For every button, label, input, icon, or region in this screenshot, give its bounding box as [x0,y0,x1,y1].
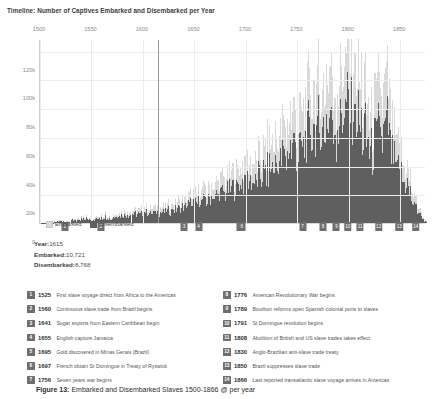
event-marker[interactable]: 12 [375,222,383,231]
event-description: Last reported transatlantic slave voyage… [252,377,389,383]
event-row[interactable]: 21560Continuous slave trade from Brazil … [27,302,227,316]
readout-disembarked-value: 8,768 [75,261,90,268]
gridline-vertical [143,40,144,223]
event-number-badge: 7 [27,376,35,384]
event-marker[interactable]: 14 [412,222,420,231]
x-axis-tick-label: 1800 [342,26,354,32]
event-number-badge: 6 [27,362,35,370]
event-description: Anglo-Brazilian anti-slave trade treaty [252,349,338,355]
legend-swatch-embarked-icon [46,221,53,228]
legend-label-disembarked: Disembarked [99,221,133,227]
readout-disembarked-key: Disembarked: [34,261,75,268]
readout-disembarked: Disembarked:8,768 [34,260,90,271]
event-row[interactable]: 41655English capture Jamaica [27,331,227,345]
event-row[interactable]: 121830Anglo-Brazilian anti-slave trade t… [223,345,423,359]
y-axis-tick-label: 20k [26,210,35,216]
event-year: 1560 [38,306,53,312]
event-number-badge: 9 [223,305,231,313]
event-description: French obtain St Domingue in Treaty of R… [56,363,167,369]
event-marker[interactable]: 8 [320,222,327,231]
event-row[interactable]: 81776American Revolutionary War begins [223,288,423,302]
event-row[interactable]: 111808Abolition of British and US slave … [223,331,423,345]
gridline-horizontal [40,52,425,53]
y-axis-tick-label: 120k [23,67,35,73]
event-number-badge: 8 [223,291,231,299]
event-row[interactable]: 101791St Domingue revolution begins [223,316,423,330]
event-year: 1776 [234,292,249,298]
y-axis-tick-label: 80k [26,124,35,130]
event-description: St Domingue revolution begins [252,320,323,326]
event-description: English capture Jamaica [56,335,113,341]
x-axis-tick-label: 1750 [290,26,302,32]
event-year: 1866 [234,377,249,383]
event-marker[interactable]: 10 [344,222,352,231]
gridline-vertical [91,40,92,223]
x-axis-tick-label: 1550 [84,26,96,32]
figure-caption-text: Embarked and Disembarked Slaves 1500-186… [71,386,255,393]
x-axis-tick-label: 1650 [187,26,199,32]
event-year: 1655 [38,335,53,341]
event-description: Seven years war begins [56,377,111,383]
gridline-vertical [400,40,401,223]
legend-item-disembarked[interactable]: Disembarked [90,221,133,228]
legend-item-embarked[interactable]: Embarked [46,221,81,228]
gridline-vertical [246,40,247,223]
event-column-right: 81776American Revolutionary War begins91… [223,288,423,387]
event-description: Bourbon reforms open Spanish colonial po… [252,306,378,312]
event-marker[interactable]: 4 [195,222,202,231]
gridline-horizontal [40,80,425,81]
figure-caption: Figure 13: Embarked and Disembarked Slav… [36,386,255,393]
event-marker[interactable]: 7 [299,222,306,231]
chart-container: 020k40k60k80k100k120k 123456789101112131… [0,22,442,217]
x-axis-tick-label: 1700 [239,26,251,32]
event-description: Brazil suppresses slave trade [252,363,320,369]
bar-disembarked [426,222,427,223]
readout-year: Year:1615 [34,239,90,250]
event-marker[interactable]: 3 [181,222,188,231]
event-row[interactable]: 131850Brazil suppresses slave trade [223,359,423,373]
event-row[interactable]: 11525First slave voyage direct from Afri… [27,288,227,302]
event-description: American Revolutionary War begins [252,292,335,298]
gridline-horizontal [40,109,425,110]
event-number-badge: 13 [223,362,231,370]
year-cursor-line[interactable] [158,40,159,223]
event-row[interactable]: 31641Sugar exports from Eastern Caribbea… [27,316,227,330]
event-year: 1695 [38,349,53,355]
y-axis-tick-label: 100k [23,95,35,101]
event-row[interactable]: 51695Gold discovered in Minas Gerais (Br… [27,345,227,359]
page-title: Timeline: Number of Captives Embarked an… [7,7,215,14]
x-axis-tick-label: 1850 [393,26,405,32]
event-marker[interactable]: 9 [333,222,340,231]
figure-caption-label: Figure 13: [36,386,69,393]
readout-embarked-key: Embarked: [34,251,66,258]
gridline-vertical [349,40,350,223]
event-column-left: 11525First slave voyage direct from Afri… [27,288,227,387]
event-year: 1789 [234,306,249,312]
readout-embarked-value: 10,721 [66,251,85,258]
event-number-badge: 12 [223,348,231,356]
event-marker[interactable]: 6 [238,222,245,231]
gridline-horizontal [40,195,425,196]
x-axis-tick-label: 1500 [33,26,45,32]
event-year: 1830 [234,349,249,355]
y-axis-labels: 020k40k60k80k100k120k [0,40,35,224]
event-row[interactable]: 61697French obtain St Domingue in Treaty… [27,359,227,373]
event-year: 1525 [38,292,53,298]
y-axis-tick-label: 40k [26,182,35,188]
event-number-badge: 1 [27,291,35,299]
gridline-horizontal [40,167,425,168]
event-row[interactable]: 91789Bourbon reforms open Spanish coloni… [223,302,423,316]
event-year: 1756 [38,377,53,383]
event-description: Continuous slave trade from Brazil begin… [56,306,152,312]
event-marker[interactable]: 11 [357,222,364,231]
gridline-vertical [297,40,298,223]
event-year: 1850 [234,363,249,369]
event-number-badge: 3 [27,320,35,328]
gridline-vertical [40,40,41,223]
event-year: 1791 [234,320,249,326]
event-description: First slave voyage direct from Africa to… [56,292,175,298]
event-marker[interactable]: 13 [396,222,404,231]
event-number-badge: 2 [27,305,35,313]
event-number-badge: 14 [223,376,231,384]
legend-swatch-disembarked-icon [90,221,97,228]
